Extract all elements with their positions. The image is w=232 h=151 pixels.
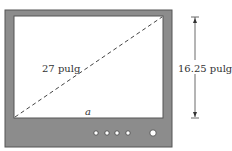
arrow-up-icon	[193, 18, 197, 23]
diagonal-label: 27 pulg	[42, 63, 81, 74]
base-label: a	[85, 106, 91, 117]
power-button-icon	[150, 130, 156, 136]
button-icon	[94, 131, 98, 135]
tv-screen	[14, 16, 163, 118]
height-label: 16.25 pulg	[178, 63, 232, 74]
button-icon	[126, 131, 130, 135]
button-icon	[115, 131, 119, 135]
arrow-down-icon	[193, 112, 197, 117]
tv-diagram: 27 pulg 16.25 pulg a	[0, 0, 232, 151]
button-icon	[105, 131, 109, 135]
